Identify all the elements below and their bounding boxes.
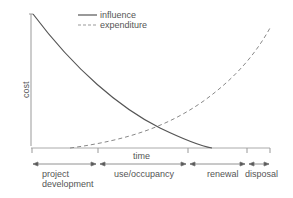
phase-arrows xyxy=(33,162,269,166)
phase-project-line2: development xyxy=(42,179,94,189)
influence-curve xyxy=(33,14,212,148)
phase-project-line1: project xyxy=(42,169,69,179)
legend-expenditure-label: expenditure xyxy=(100,20,147,30)
x-axis-label: time xyxy=(133,151,150,161)
legend-influence-label: influence xyxy=(100,10,136,20)
phase-use: use/occupancy xyxy=(114,169,174,179)
expenditure-curve xyxy=(70,28,270,148)
phase-renewal: renewal xyxy=(207,169,239,179)
y-axis-label: cost xyxy=(21,81,31,98)
phase-disposal: disposal xyxy=(245,169,278,179)
